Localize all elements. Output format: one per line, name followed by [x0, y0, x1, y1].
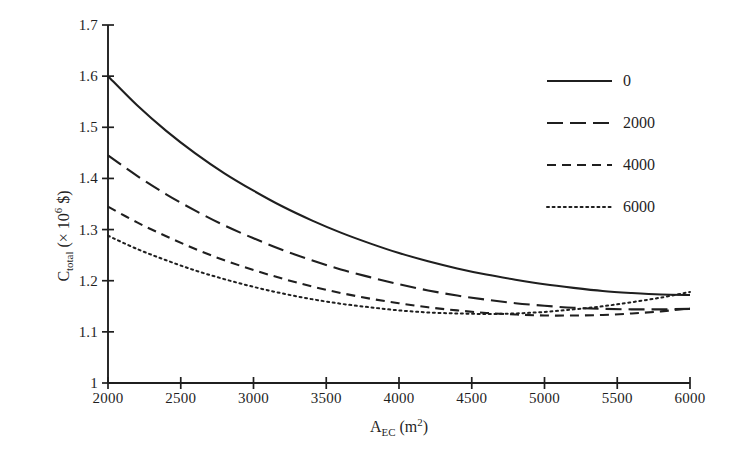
x-tick-label: 5000: [529, 390, 560, 407]
y-axis-title-rest-close: $): [55, 190, 72, 207]
x-tick-label: 4000: [384, 390, 415, 407]
x-tick-label: 6000: [675, 390, 706, 407]
y-tick-label: 1.5: [46, 119, 98, 136]
legend-label-6000: 6000: [623, 198, 655, 216]
x-axis-title: AEC (m2): [370, 418, 428, 436]
x-axis-title-unit-close: ): [423, 418, 428, 435]
x-tick-label: 5500: [602, 390, 633, 407]
y-tick-label: 1.1: [46, 323, 98, 340]
y-tick-label: 1.2: [46, 272, 98, 289]
legend-label-4000: 4000: [623, 156, 655, 174]
x-axis-title-main: A: [370, 418, 382, 435]
x-tick-label: 2500: [165, 390, 196, 407]
y-tick-label: 1.6: [46, 68, 98, 85]
x-axis-title-sub: EC: [382, 426, 396, 438]
x-tick-label: 4500: [456, 390, 487, 407]
x-tick-label: 3000: [238, 390, 269, 407]
y-axis-title-sup: 6: [52, 208, 64, 213]
chart-figure: Ctotal (× 106 $) AEC (m2) 11.11.21.31.41…: [0, 0, 753, 472]
x-tick-label: 2000: [93, 390, 124, 407]
y-axis-title-sub: total: [63, 252, 75, 271]
legend-label-0: 0: [623, 72, 631, 90]
y-tick-label: 1.3: [46, 221, 98, 238]
x-axis-title-unit-open: (m: [395, 418, 417, 435]
x-tick-label: 3500: [311, 390, 342, 407]
y-tick-label: 1.4: [46, 170, 98, 187]
series-line-4000: [108, 207, 690, 316]
y-tick-label: 1.7: [46, 17, 98, 34]
series-line-0: [108, 76, 690, 295]
series-line-2000: [108, 155, 690, 309]
y-tick-label: 1: [46, 375, 98, 392]
legend-label-2000: 2000: [623, 114, 655, 132]
